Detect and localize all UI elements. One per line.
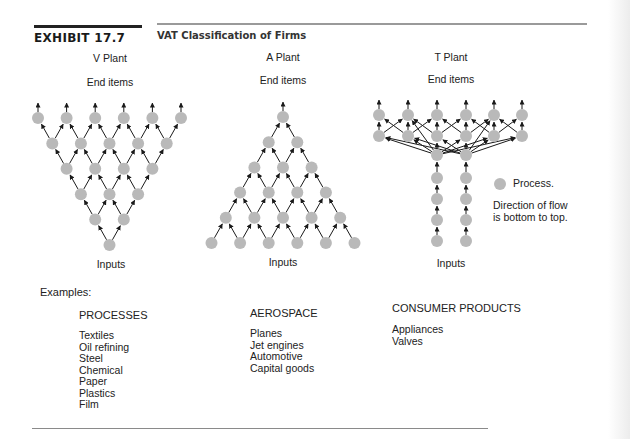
process-node <box>460 214 472 226</box>
examples-label: Examples: <box>40 286 91 298</box>
flow-arrow <box>127 149 135 163</box>
examples-group-heading-processes: PROCESSES <box>79 309 147 321</box>
process-node <box>146 163 158 175</box>
process-node <box>118 214 130 226</box>
process-node <box>431 130 443 142</box>
process-node <box>516 130 528 142</box>
process-node <box>431 214 443 226</box>
process-node <box>220 212 232 224</box>
example-item: Film <box>79 399 129 411</box>
flow-arrow <box>55 124 63 138</box>
flow-arrow <box>272 199 280 213</box>
footer-rule <box>32 428 488 429</box>
example-item: Appliances <box>392 324 443 336</box>
flow-arrow <box>98 200 106 214</box>
flow-arrow <box>315 224 323 238</box>
process-node <box>132 137 144 149</box>
process-node <box>104 239 116 251</box>
process-node <box>277 111 289 123</box>
flow-arrow <box>141 175 149 189</box>
process-node <box>460 130 472 142</box>
legend-process-icon <box>494 178 506 190</box>
process-node <box>32 112 44 124</box>
legend-flow-note-line1: Direction of flow <box>493 199 568 211</box>
process-node <box>431 109 443 121</box>
flow-arrow <box>243 173 251 187</box>
flow-arrow <box>99 175 107 189</box>
examples-group-heading-consumer-products: CONSUMER PRODUCTS <box>392 302 521 314</box>
flow-arrow <box>301 148 309 162</box>
flow-arrow <box>170 124 178 138</box>
process-node <box>277 161 289 173</box>
flow-arrow <box>98 149 106 163</box>
flow-arrow <box>70 124 78 138</box>
process-node <box>206 237 218 249</box>
process-node <box>277 212 289 224</box>
flow-arrow <box>99 226 107 240</box>
process-node <box>263 237 275 249</box>
flow-arrow <box>386 137 460 153</box>
process-node <box>402 109 414 121</box>
example-item: Steel <box>79 353 129 365</box>
flow-arrow <box>70 175 78 189</box>
process-node <box>132 188 144 200</box>
process-node <box>334 212 346 224</box>
flow-arrow <box>286 148 294 162</box>
flow-arrow <box>99 124 107 138</box>
process-node <box>104 137 116 149</box>
process-node <box>306 161 318 173</box>
process-node <box>431 149 443 161</box>
flow-arrow <box>300 224 308 238</box>
flow-arrow <box>272 123 280 137</box>
flow-arrow <box>315 199 323 213</box>
flow-arrow <box>243 224 251 238</box>
process-node <box>118 112 130 124</box>
flow-arrow <box>113 149 121 163</box>
flow-arrow <box>257 199 265 213</box>
examples-list-aerospace: Planes Jet engines Automotive Capital go… <box>250 328 314 374</box>
flow-arrow <box>156 124 164 138</box>
example-item: Textiles <box>79 330 129 342</box>
flow-arrow <box>155 149 163 163</box>
flow-arrow <box>84 175 92 189</box>
process-node <box>175 112 187 124</box>
flow-arrow <box>141 124 149 138</box>
process-node <box>234 237 246 249</box>
process-node <box>431 235 443 247</box>
flow-arrow <box>257 148 265 162</box>
process-node <box>460 235 472 247</box>
process-node <box>460 149 472 161</box>
process-node <box>263 136 275 148</box>
process-node <box>320 187 332 199</box>
process-nodes <box>32 109 528 251</box>
process-node <box>402 130 414 142</box>
flow-arrow <box>214 224 222 238</box>
flow-arrow <box>258 173 266 187</box>
process-node <box>46 137 58 149</box>
flow-arrow <box>127 175 135 189</box>
process-node <box>146 112 158 124</box>
flow-arrow <box>272 224 280 238</box>
process-node <box>61 112 73 124</box>
flow-arrow <box>127 124 135 138</box>
example-item: Automotive <box>250 351 314 363</box>
flow-arrow <box>229 224 237 238</box>
process-node <box>306 212 318 224</box>
legend-process-label: Process. <box>513 177 554 189</box>
flow-arrow <box>229 199 237 213</box>
process-node <box>89 214 101 226</box>
process-node <box>320 237 332 249</box>
flow-arrow <box>300 173 308 187</box>
flow-arrow <box>84 200 92 214</box>
process-node <box>104 188 116 200</box>
process-node <box>75 188 87 200</box>
flow-arrow <box>112 226 120 240</box>
flow-arrow <box>286 123 294 137</box>
process-node <box>291 136 303 148</box>
flow-arrow <box>258 224 266 238</box>
flow-arrow <box>286 173 294 187</box>
process-node <box>291 187 303 199</box>
process-node <box>431 172 443 184</box>
example-item: Paper <box>79 376 129 388</box>
flow-arrow <box>286 224 294 238</box>
